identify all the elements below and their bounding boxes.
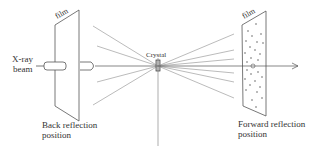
crystal-label: Crystal — [146, 51, 166, 59]
collimator-left — [44, 62, 66, 70]
back-film-label: film — [54, 6, 71, 21]
forward-film — [242, 11, 266, 116]
forward-position-label: Forward reflection position — [238, 119, 307, 139]
forward-film-label: film — [241, 6, 258, 21]
back-rays — [93, 26, 158, 105]
xray-diffraction-diagram: film film Crystal — [0, 0, 314, 146]
diffraction-spots — [244, 23, 263, 107]
collimator-right — [80, 62, 94, 70]
back-position-label: Back reflection position — [42, 120, 99, 140]
xray-label: X-ray beam — [12, 54, 35, 74]
